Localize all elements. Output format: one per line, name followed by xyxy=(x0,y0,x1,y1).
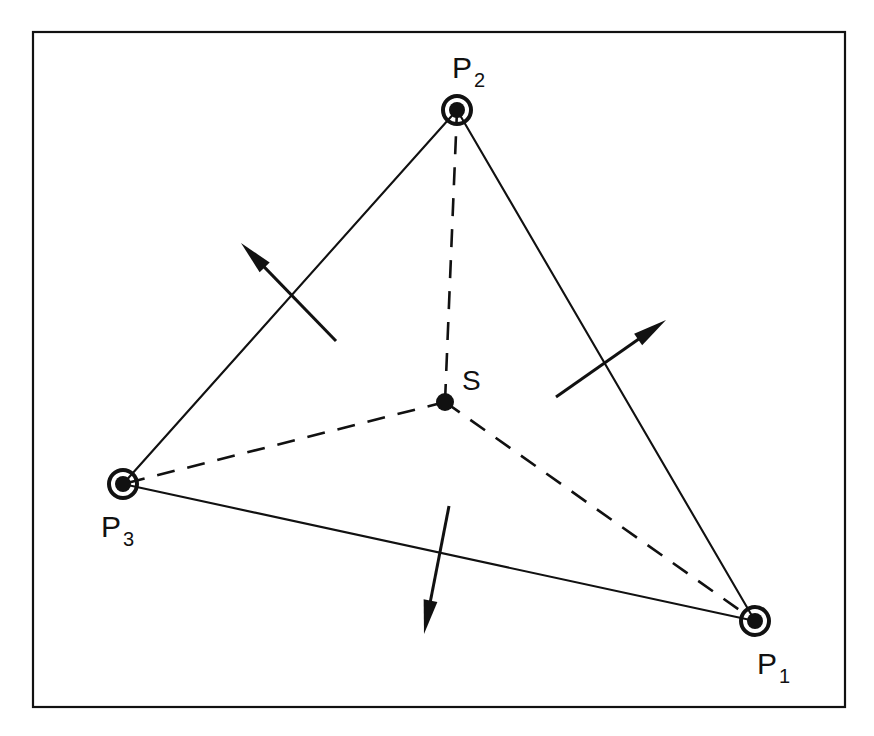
vertex-dot-p3 xyxy=(115,476,131,492)
centroid-dot xyxy=(436,393,454,411)
label-p2: P xyxy=(452,51,472,84)
label-centroid-s: S xyxy=(462,365,481,396)
centroid-marker xyxy=(436,393,454,411)
vertex-dot-p1 xyxy=(747,613,763,629)
label-p3-subscript: 3 xyxy=(123,528,134,550)
label-p3: P xyxy=(101,510,121,543)
diagram-canvas: P1P2P3S xyxy=(0,0,874,736)
vertex-dot-p2 xyxy=(449,102,465,118)
figure-root: P1P2P3S xyxy=(0,0,874,736)
label-p1: P xyxy=(757,647,777,680)
label-p2-subscript: 2 xyxy=(474,69,485,91)
label-p1-subscript: 1 xyxy=(779,665,790,687)
